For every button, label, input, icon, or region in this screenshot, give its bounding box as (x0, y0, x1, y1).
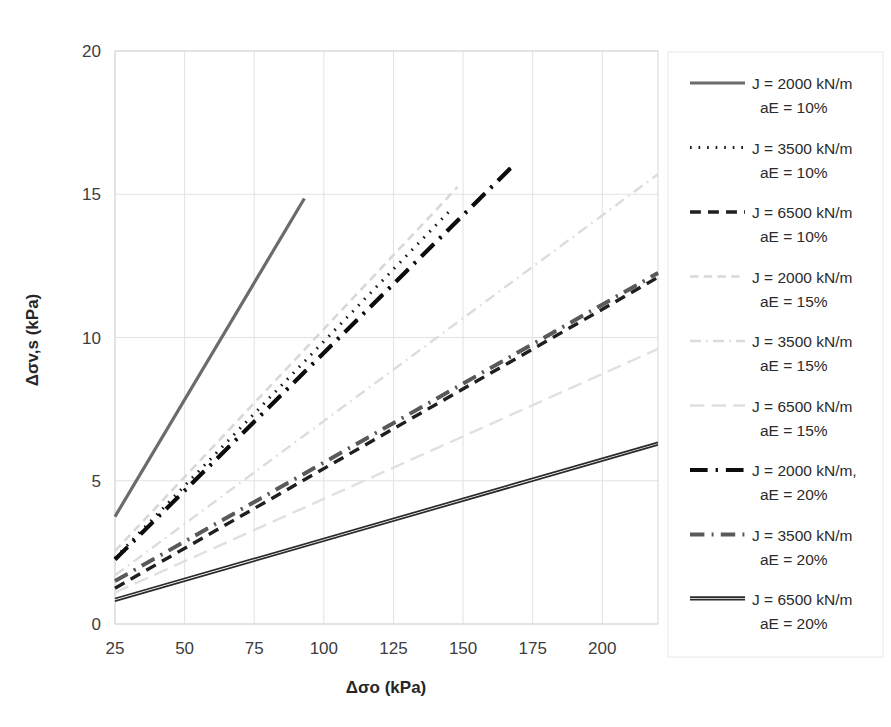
legend-label-line2: aE = 10% (760, 228, 828, 245)
chart-figure: 255075100125150175200 05101520 Δσo (kPa)… (0, 0, 891, 727)
legend-label-line2: aE = 15% (760, 422, 828, 439)
y-tick-label: 0 (92, 615, 101, 634)
legend-label-line1: J = 3500 kN/m (752, 140, 852, 157)
legend-label-line1: J = 3500 kN/m (752, 333, 852, 350)
legend-label-line1: J = 6500 kN/m (752, 204, 852, 221)
x-tick-label: 75 (245, 639, 264, 658)
x-tick-label: 125 (379, 639, 407, 658)
legend-label-line2: aE = 20% (760, 615, 828, 632)
legend-label-line2: aE = 10% (760, 99, 828, 116)
x-tick-label: 25 (106, 639, 125, 658)
legend-label-line2: aE = 15% (760, 293, 828, 310)
y-tick-label: 10 (82, 329, 101, 348)
y-axis-title: Δσv,s (kPa) (23, 294, 42, 387)
legend-label-line1: J = 6500 kN/m (752, 591, 852, 608)
legend-label-line2: aE = 15% (760, 357, 828, 374)
y-tick-label: 20 (82, 42, 101, 61)
y-tick-label: 5 (92, 472, 101, 491)
x-tick-label: 200 (588, 639, 616, 658)
x-tick-label: 150 (449, 639, 477, 658)
x-tick-label: 50 (175, 639, 194, 658)
legend-label-line1: J = 2000 kN/m (752, 75, 852, 92)
legend-label-line2: aE = 20% (760, 486, 828, 503)
legend-label-line1: J = 6500 kN/m (752, 398, 852, 415)
legend-label-line2: aE = 20% (760, 551, 828, 568)
line-chart: 255075100125150175200 05101520 Δσo (kPa)… (0, 0, 891, 727)
legend-label-line1: J = 2000 kN/m (752, 269, 852, 286)
x-tick-label: 175 (519, 639, 547, 658)
y-tick-label: 15 (82, 185, 101, 204)
legend-label-line2: aE = 10% (760, 164, 828, 181)
legend-label-line1: J = 2000 kN/m, (752, 462, 857, 479)
legend-label-line1: J = 3500 kN/m (752, 527, 852, 544)
x-axis-title: Δσo (kPa) (346, 678, 427, 697)
x-tick-label: 100 (310, 639, 338, 658)
